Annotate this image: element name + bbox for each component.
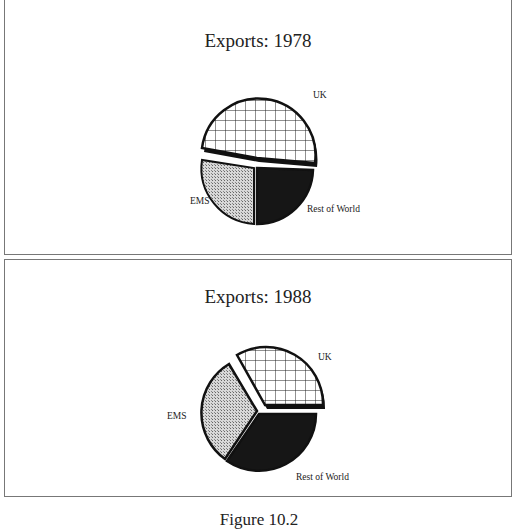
label-rest-of-world-1978: Rest of World — [307, 204, 360, 214]
pie-chart-1988: UK EMS Rest of World — [5, 260, 513, 498]
label-uk-1988: UK — [318, 352, 332, 362]
label-uk-1978: UK — [313, 90, 327, 100]
label-ems-1978: EMS — [190, 196, 210, 206]
slice-ems-1978 — [201, 160, 254, 224]
label-rest-of-world-1988: Rest of World — [296, 472, 349, 482]
slice-rest-of-world-1978 — [257, 168, 313, 224]
slice-uk-1978 — [202, 99, 317, 167]
pie-chart-1978: UK EMS Rest of World — [5, 0, 513, 255]
figure-caption: Figure 10.2 — [0, 510, 518, 529]
label-ems-1988: EMS — [167, 411, 187, 421]
chart-panel-1978: Exports: 1978 UK EMS Rest of World — [4, 0, 512, 255]
chart-panel-1988: Exports: 1988 UK EMS Rest of World — [4, 259, 512, 497]
